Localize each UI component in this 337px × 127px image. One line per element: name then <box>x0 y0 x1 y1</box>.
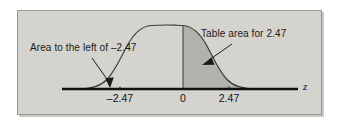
z-axis-label: z <box>303 81 307 92</box>
unshaded-left-area <box>78 26 183 90</box>
normal-curve-plot <box>0 0 337 127</box>
right-annotation-leader-line <box>209 44 232 60</box>
left-annotation-arrowhead <box>105 77 114 88</box>
normal-curve-figure: Area to the left of –2.47 Table area for… <box>0 0 337 127</box>
table-area-label: Table area for 2.47 <box>201 29 286 39</box>
x-tick-label-zero: 0 <box>180 93 186 104</box>
x-tick-label-negative: –2.47 <box>107 93 133 104</box>
left-tail-area-label: Area to the left of –2.47 <box>30 43 136 53</box>
x-tick-label-positive: 2.47 <box>219 93 239 104</box>
